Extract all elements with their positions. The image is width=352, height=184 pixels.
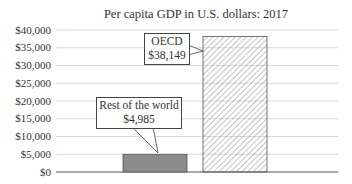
y-axis-ticks: $0$5,000$10,000$15,000$20,000$25,000$30,…	[15, 24, 51, 178]
y-tick-label: $15,000	[15, 112, 51, 124]
bar-rest-of-the-world	[123, 154, 187, 172]
pointer-oecd	[188, 45, 203, 55]
y-tick-label: $35,000	[15, 41, 51, 53]
callout-value: $38,149	[145, 48, 189, 62]
chart-plot: $0$5,000$10,000$15,000$20,000$25,000$30,…	[0, 0, 352, 184]
bar-oecd	[203, 37, 267, 172]
callout-oecd: OECD $38,149	[144, 33, 190, 65]
y-tick-label: $40,000	[15, 24, 51, 36]
callout-label: OECD	[145, 34, 189, 48]
y-tick-label: $10,000	[15, 130, 51, 142]
callout-label: Rest of the world	[97, 98, 181, 112]
y-tick-label: $20,000	[15, 95, 51, 107]
y-tick-label: $0	[40, 166, 52, 178]
y-tick-label: $5,000	[21, 148, 52, 160]
y-tick-label: $25,000	[15, 77, 51, 89]
callout-value: $4,985	[97, 112, 181, 126]
callout-rest-of-world: Rest of the world $4,985	[96, 97, 182, 129]
y-tick-label: $30,000	[15, 59, 51, 71]
pointer-rest-of-world	[132, 127, 158, 153]
